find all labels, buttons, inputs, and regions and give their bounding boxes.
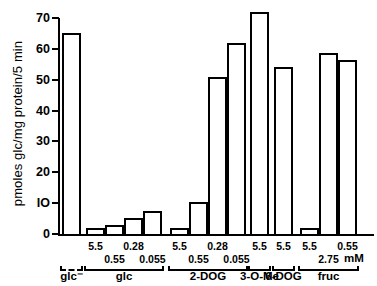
bar [227,43,246,234]
y-tick-label-50: 50 [24,74,50,87]
y-tick-label-70: 70 [24,12,50,25]
group-label: glc [84,271,164,283]
concentration-label: 0.55 [326,241,370,252]
bar [189,202,208,234]
y-tick-label-30: 30 [24,135,50,148]
plot-area [60,18,372,234]
x-axis-unit-label: mM [344,252,364,264]
x-axis-line [58,234,374,236]
bar [62,33,81,234]
bar [300,228,319,234]
bar [86,228,105,234]
bar [208,77,227,234]
concentration-label: 0.28 [196,241,240,252]
bar [105,225,124,234]
y-tick-label-10: IO [24,197,50,210]
concentration-label: 0.055 [131,254,175,265]
bar [143,211,162,234]
y-axis-tick-labels: 0IO203040506070 [20,0,50,286]
y-tick-label-20: 20 [24,166,50,179]
y-tick-label-0: 0 [24,228,50,241]
concentration-label: 0.28 [112,241,156,252]
y-tick-label-40: 40 [24,105,50,118]
bar-chart-figure: pmoles glc/mg protein/5 min 0IO203040506… [0,0,377,286]
bar [338,60,357,234]
bar [124,218,143,234]
concentration-label: 0.055 [215,254,259,265]
bar [319,53,338,234]
group-label: fruc [289,271,369,283]
bar [274,67,293,234]
bar [250,12,269,234]
y-tick-label-60: 60 [24,43,50,56]
bar [170,228,189,234]
